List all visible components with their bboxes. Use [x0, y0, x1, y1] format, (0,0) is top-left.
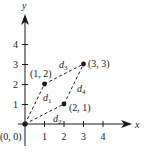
y-tick-label: 2: [13, 79, 18, 90]
coordinate-diagram: x y 1 2 3 4 1 2 3 4 d1 d2 d3 d4 (0, 0) (…: [0, 0, 144, 154]
x-tick-label: 4: [101, 131, 106, 142]
y-tick-label: 1: [13, 99, 18, 110]
point-label-2-1: (2, 1): [69, 102, 91, 114]
y-axis-label: y: [21, 0, 27, 11]
x-tick-label: 1: [42, 131, 47, 142]
point-label-3-3: (3, 3): [88, 58, 110, 70]
segment-label-d3: d3: [59, 59, 68, 72]
axes: [18, 22, 126, 146]
y-tick-label: 4: [13, 39, 18, 50]
point-origin: [22, 121, 27, 126]
point-1-2: [42, 82, 47, 87]
segment-label-d1: d1: [43, 92, 52, 105]
x-tick-label: 3: [81, 131, 86, 142]
point-label-origin: (0, 0): [0, 131, 22, 143]
y-tick-label: 3: [13, 59, 18, 70]
point-2-1: [62, 102, 67, 107]
x-axis-label: x: [134, 119, 140, 130]
point-label-1-2: (1, 2): [30, 68, 52, 80]
point-3-3: [81, 62, 86, 67]
x-tick-label: 2: [62, 131, 67, 142]
segment-label-d4: d4: [77, 83, 86, 96]
